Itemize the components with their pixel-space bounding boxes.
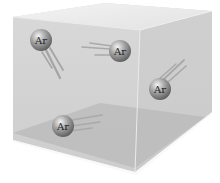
atom-label: Ar bbox=[56, 121, 69, 132]
container-box bbox=[13, 3, 212, 175]
atom-4: Ar bbox=[52, 115, 74, 137]
atom-3: Ar bbox=[149, 78, 171, 100]
atom-2: Ar bbox=[109, 40, 131, 62]
gas-container-diagram: Ar Ar Ar Ar bbox=[0, 0, 220, 183]
atom-1: Ar bbox=[30, 29, 52, 51]
atom-label: Ar bbox=[34, 35, 47, 46]
atom-label: Ar bbox=[113, 46, 126, 57]
atom-label: Ar bbox=[153, 84, 166, 95]
